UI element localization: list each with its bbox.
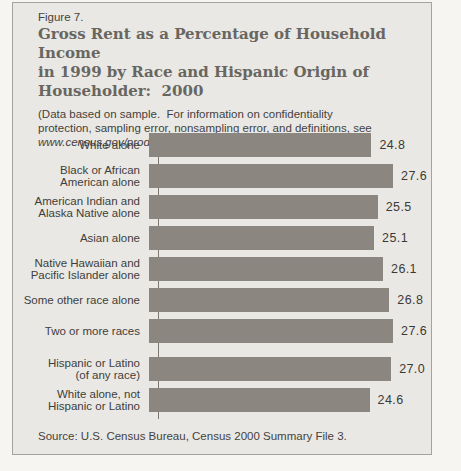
- category-label: White alone, not Hispanic or Latino: [13, 388, 149, 413]
- bar-track: 27.6: [149, 319, 427, 343]
- chart-row: Native Hawaiian and Pacific Islander alo…: [13, 257, 427, 281]
- value-label: 27.0: [399, 362, 425, 376]
- category-label: Hispanic or Latino (of any race): [13, 357, 149, 382]
- value-label: 24.8: [379, 138, 405, 152]
- figure-panel: Figure 7. Gross Rent as a Percentage of …: [12, 2, 432, 455]
- bar-track: 26.1: [149, 257, 427, 281]
- value-label: 24.6: [378, 393, 404, 407]
- bar: [149, 257, 383, 281]
- chart-row: Black or African American alone 27.6: [13, 164, 427, 188]
- category-label: Native Hawaiian and Pacific Islander alo…: [13, 257, 149, 282]
- chart-row: White alone, not Hispanic or Latino 24.6: [13, 388, 427, 412]
- value-label: 27.6: [401, 169, 427, 183]
- source-note: Source: U.S. Census Bureau, Census 2000 …: [38, 430, 347, 442]
- category-label: Two or more races: [13, 325, 149, 338]
- value-label: 26.1: [391, 262, 417, 276]
- bar: [149, 319, 393, 343]
- bar-track: 24.8: [149, 133, 427, 157]
- figure-number: Figure 7.: [38, 11, 406, 23]
- chart-row: White alone 24.8: [13, 133, 427, 157]
- bar-track: 27.6: [149, 164, 427, 188]
- bar: [149, 388, 370, 412]
- category-label: American Indian and Alaska Native alone: [13, 195, 149, 220]
- bar: [149, 357, 391, 381]
- bar-track: 27.0: [149, 357, 427, 381]
- chart-row: Asian alone 25.1: [13, 226, 427, 250]
- category-label: Some other race alone: [13, 294, 149, 307]
- category-label: Black or African American alone: [13, 164, 149, 189]
- note-text: (Data based on sample. For information o…: [38, 108, 372, 134]
- bar-track: 25.1: [149, 226, 427, 250]
- bar-track: 24.6: [149, 388, 427, 412]
- chart-row: Two or more races 27.6: [13, 319, 427, 343]
- value-label: 25.1: [382, 231, 408, 245]
- bar: [149, 288, 389, 312]
- value-label: 27.6: [401, 324, 427, 338]
- chart-row: Hispanic or Latino (of any race) 27.0: [13, 357, 427, 381]
- bar-track: 26.8: [149, 288, 427, 312]
- category-label: Asian alone: [13, 232, 149, 245]
- figure-title: Gross Rent as a Percentage of Household …: [38, 25, 409, 101]
- bar: [149, 164, 393, 188]
- value-label: 25.5: [386, 200, 412, 214]
- bar-chart: White alone 24.8 Black or African Americ…: [13, 133, 427, 419]
- bar-track: 25.5: [149, 195, 427, 219]
- bar: [149, 226, 374, 250]
- value-label: 26.8: [397, 293, 423, 307]
- bar: [149, 133, 371, 157]
- chart-row: Some other race alone 26.8: [13, 288, 427, 312]
- category-label: White alone: [13, 139, 149, 152]
- chart-row: American Indian and Alaska Native alone …: [13, 195, 427, 219]
- bar: [149, 195, 378, 219]
